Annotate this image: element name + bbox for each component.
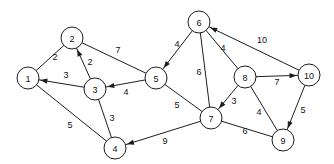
- edge-weight-label: 6: [242, 126, 247, 136]
- edge-weight-label: 4: [220, 43, 225, 53]
- edge-weight-label: 4: [256, 107, 261, 117]
- node-label: 8: [242, 73, 247, 83]
- edge-weight-label: 5: [67, 120, 72, 130]
- edge-arrowhead: [40, 79, 47, 84]
- edge-weight-label: 5: [174, 100, 179, 110]
- edge-weight-label: 3: [231, 96, 236, 106]
- graph-node[interactable]: 6: [188, 11, 210, 33]
- node-label: 10: [304, 71, 314, 81]
- node-label: 9: [280, 136, 285, 146]
- graph-node[interactable]: 1: [17, 67, 39, 89]
- graph-node[interactable]: 4: [104, 137, 126, 159]
- edge-arrowhead: [289, 73, 296, 78]
- edge-arrowhead: [164, 61, 170, 68]
- edge-weight-label: 2: [52, 52, 57, 62]
- node-label: 4: [112, 144, 117, 154]
- edge-weight-label: 7: [115, 45, 120, 55]
- node-label: 1: [25, 74, 30, 84]
- graph-canvas: 2327453464107345569 12345678910: [0, 0, 334, 164]
- edge-weight-label: 5: [300, 105, 305, 115]
- edge-arrowhead: [288, 121, 293, 128]
- node-label: 5: [153, 74, 158, 84]
- node-label: 3: [92, 85, 97, 95]
- graph-edge: [165, 84, 202, 111]
- graph-edge: [200, 33, 209, 107]
- edge-arrowhead: [107, 83, 114, 88]
- graph-node[interactable]: 10: [298, 64, 320, 86]
- edge-arrowhead: [210, 27, 217, 32]
- graph-node[interactable]: 7: [200, 107, 222, 129]
- graph-edge: [36, 45, 64, 70]
- node-label: 7: [208, 114, 213, 124]
- graph-node[interactable]: 5: [145, 67, 167, 89]
- edge-arrowhead: [127, 140, 134, 145]
- edge-weight-label: 2: [87, 57, 92, 67]
- edge-weight-label: 6: [196, 67, 201, 77]
- edge-arrowhead: [77, 49, 82, 56]
- edge-weight-label: 3: [63, 70, 68, 80]
- edge-weight-label: 4: [123, 87, 128, 97]
- graph-figure: 2327453464107345569 12345678910: [0, 0, 334, 164]
- edge-weight-label: 7: [274, 77, 279, 87]
- edge-weight-label: 4: [174, 39, 179, 49]
- edge-weight-label: 10: [257, 35, 267, 45]
- edge-weight-label: 3: [109, 113, 114, 123]
- graph-node[interactable]: 2: [61, 27, 83, 49]
- graph-node[interactable]: 8: [234, 66, 256, 88]
- edge-weight-label: 9: [162, 136, 167, 146]
- node-label: 6: [196, 18, 201, 28]
- graph-edge: [251, 86, 278, 130]
- node-label: 2: [69, 34, 74, 44]
- graph-node[interactable]: 9: [272, 129, 294, 151]
- graph-node[interactable]: 3: [84, 78, 106, 100]
